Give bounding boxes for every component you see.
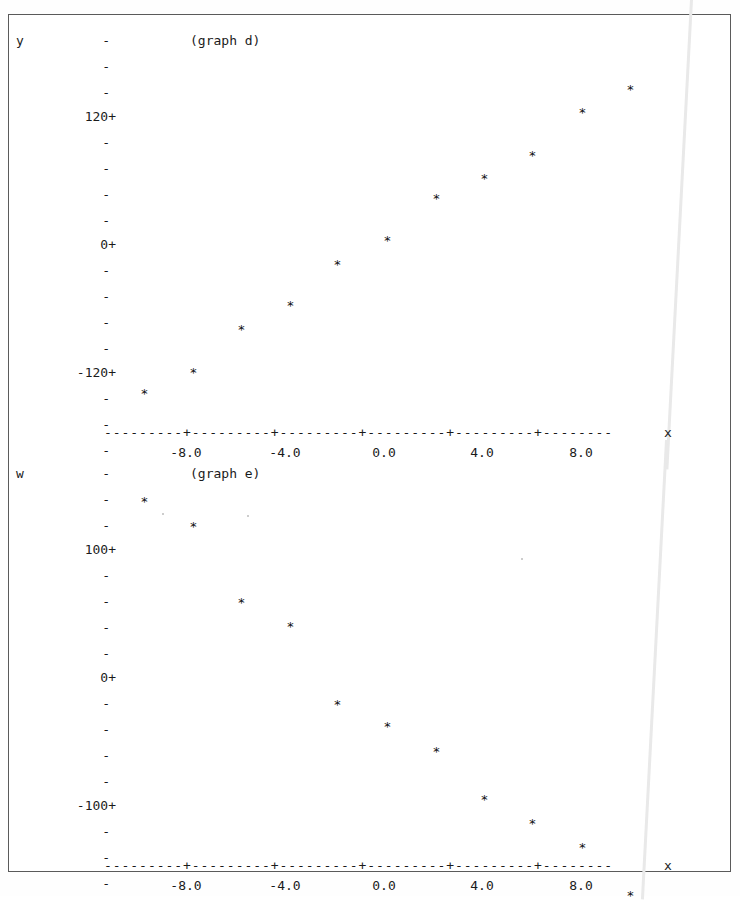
data-point: * (383, 720, 392, 731)
y-axis-tick-minor: - (0, 467, 110, 480)
data-point: * (140, 387, 149, 398)
data-point: * (528, 149, 537, 160)
y-axis-tick-minor: - (0, 418, 110, 431)
x-axis-tick-label: -8.0 (163, 879, 209, 892)
y-axis-tick-minor: - (0, 775, 110, 788)
y-axis-tick-minor: - (0, 316, 110, 329)
y-axis-tick-minor: - (0, 877, 110, 890)
y-axis-tick-labeled: -120+ (0, 366, 116, 379)
data-point: * (140, 495, 149, 506)
y-axis-tick-minor: - (0, 647, 110, 660)
y-axis-tick-minor: - (0, 264, 110, 277)
y-axis-tick-minor: - (0, 825, 110, 838)
y-axis-tick-labeled: 0+ (0, 671, 116, 684)
x-axis-line-graph-e: ---------+---------+---------+---------+… (104, 859, 613, 872)
y-axis-tick-minor: - (0, 749, 110, 762)
y-axis-tick-minor: - (0, 697, 110, 710)
y-axis-tick-minor: - (0, 214, 110, 227)
y-axis-tick-minor: - (0, 86, 110, 99)
data-point: * (578, 841, 587, 852)
x-axis-line-graph-d: ---------+---------+---------+---------+… (104, 426, 613, 439)
y-axis-tick-minor: - (0, 621, 110, 634)
plot-area-graph-d: y (graph d) ---120+----0+-----120+--- **… (0, 22, 740, 442)
scan-speckle (247, 515, 249, 517)
y-axis-tick-labeled: 100+ (0, 543, 116, 556)
data-point: * (626, 83, 635, 94)
y-axis-tick-minor: - (0, 851, 110, 864)
y-axis-tick-minor: - (0, 60, 110, 73)
data-point: * (286, 620, 295, 631)
y-axis-tick-minor: - (0, 519, 110, 532)
y-axis-tick-minor: - (0, 595, 110, 608)
data-point: * (480, 172, 489, 183)
graph-title-e: (graph e) (190, 467, 260, 480)
plot-area-graph-e: w (graph e) ---100+----0+-----100+--- **… (0, 455, 740, 875)
data-point: * (286, 299, 295, 310)
y-axis-tick-labeled: 120+ (0, 110, 116, 123)
data-point: * (189, 366, 198, 377)
graph-title-d: (graph d) (190, 34, 260, 47)
data-point: * (383, 234, 392, 245)
y-axis-tick-minor: - (0, 136, 110, 149)
data-point: * (237, 323, 246, 334)
data-point: * (432, 745, 441, 756)
data-point: * (432, 192, 441, 203)
scan-speckle (521, 558, 523, 560)
y-axis-tick-minor: - (0, 493, 110, 506)
y-axis-tick-minor: - (0, 723, 110, 736)
y-axis-tick-labeled: -100+ (0, 799, 116, 812)
y-axis-tick-minor: - (0, 290, 110, 303)
y-axis-tick-minor: - (0, 342, 110, 355)
chart-graph-e: w (graph e) ---100+----0+-----100+--- **… (0, 455, 740, 875)
data-point: * (333, 258, 342, 269)
y-axis-tick-minor: - (0, 162, 110, 175)
x-axis-tick-label: 0.0 (361, 879, 407, 892)
data-point: * (237, 596, 246, 607)
data-point: * (626, 889, 635, 900)
y-axis-tick-minor: - (0, 392, 110, 405)
x-axis-tick-label: 8.0 (558, 879, 604, 892)
y-axis-tick-minor: - (0, 188, 110, 201)
chart-graph-d: y (graph d) ---120+----0+-----120+--- **… (0, 22, 740, 442)
data-point: * (480, 793, 489, 804)
x-axis-variable-label-d: x (664, 426, 672, 439)
x-axis-tick-label: -4.0 (262, 879, 308, 892)
data-point: * (578, 106, 587, 117)
data-point: * (333, 698, 342, 709)
data-point: * (528, 817, 537, 828)
data-point: * (189, 520, 198, 531)
scan-speckle (162, 513, 164, 515)
x-axis-variable-label-e: x (664, 859, 672, 872)
y-axis-tick-minor: - (0, 34, 110, 47)
x-axis-tick-label: 4.0 (459, 879, 505, 892)
y-axis-tick-labeled: 0+ (0, 238, 116, 251)
y-axis-tick-minor: - (0, 569, 110, 582)
